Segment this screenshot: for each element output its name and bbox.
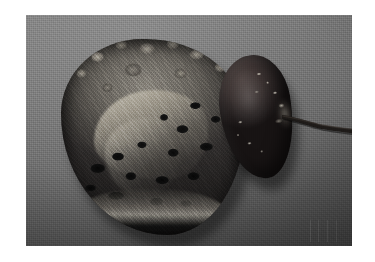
ureter-structure [282,110,352,140]
plate-corner-marks [306,220,346,242]
specimen-photograph [26,15,352,246]
screenshot-root [0,0,375,262]
